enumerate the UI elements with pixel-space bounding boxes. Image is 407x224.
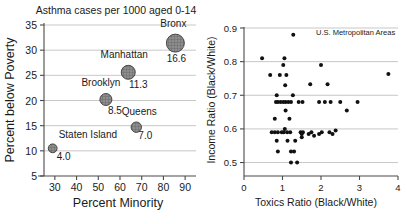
x-tick-label: 0 xyxy=(241,182,246,193)
bubble-group: Queens7.0 xyxy=(122,106,157,141)
scatter-point xyxy=(356,100,360,104)
scatter-point xyxy=(282,56,286,60)
scatter-point xyxy=(308,82,312,86)
scatter-point xyxy=(281,63,285,67)
y-tick-label: 0.9 xyxy=(224,23,237,34)
y-tick-label: 0.6 xyxy=(224,123,237,134)
scatter-point xyxy=(289,100,293,104)
bubble-value-queens: 7.0 xyxy=(138,130,152,141)
scatter-point xyxy=(273,117,277,121)
bubble-label-brooklyn: Brooklyn xyxy=(81,77,120,88)
scatter-point xyxy=(320,130,324,134)
scatter-point xyxy=(319,63,323,67)
y-axis-title-asthma: Percent below Poverty xyxy=(3,37,17,163)
bubble-marker xyxy=(100,93,112,105)
x-axis-title-toxics: Toxics Ratio (Black/White) xyxy=(255,196,377,208)
scatter-point xyxy=(338,100,342,104)
scatter-point xyxy=(345,108,349,112)
y-tick-label: 5 xyxy=(31,170,37,182)
scatter-point xyxy=(293,139,297,143)
toxics-income-scatter-svg: 0.50.60.70.80.901234 U.S. Metropolitan A… xyxy=(204,0,407,224)
scatter-point xyxy=(276,149,280,153)
bubble-marker xyxy=(121,65,135,79)
y-tick-label: 0.7 xyxy=(224,90,237,101)
scatter-point xyxy=(291,33,295,37)
y-tick-label: 35 xyxy=(25,19,37,31)
scatter-point xyxy=(268,73,272,77)
scatter-point xyxy=(317,100,321,104)
bubble-value-bronx: 16.6 xyxy=(167,53,187,64)
y-tick-label: 0.8 xyxy=(224,56,237,67)
x-tick-label: 2 xyxy=(318,182,323,193)
bubble-value-manhattan: 11.3 xyxy=(129,79,148,90)
bubble-label-manhattan: Manhattan xyxy=(101,49,148,60)
scatter-point xyxy=(309,130,313,134)
scatter-point xyxy=(278,73,282,77)
bubble-marker xyxy=(166,34,184,52)
x-tick-label: 4 xyxy=(395,182,400,193)
scatter-point xyxy=(287,117,291,121)
scatter-point xyxy=(289,161,293,165)
y-tick-label: 30 xyxy=(25,44,37,56)
scatter-point xyxy=(283,83,287,87)
bubble-value-staten-island: 4.0 xyxy=(57,151,71,162)
bubble-group: Bronx16.6 xyxy=(160,18,186,64)
bubble-label-staten-island: Staten Island xyxy=(59,129,117,140)
annotation-us-metropolitan-areas: U.S. Metropolitan Areas xyxy=(316,28,395,37)
scatter-series-toxics xyxy=(260,33,390,165)
scatter-point xyxy=(276,130,280,134)
scatter-point xyxy=(284,73,288,77)
x-tick-label: 40 xyxy=(71,181,83,193)
scatter-point xyxy=(260,56,264,60)
x-tick-label: 80 xyxy=(158,181,170,193)
scatter-point xyxy=(292,149,296,153)
x-tick-label: 1 xyxy=(280,182,285,193)
x-tick-label: 70 xyxy=(136,181,148,193)
toxics-income-scatter-panel: 0.50.60.70.80.901234 U.S. Metropolitan A… xyxy=(204,0,407,224)
chart-title-asthma: Asthma cases per 1000 aged 0-14 xyxy=(36,4,197,16)
scatter-point xyxy=(323,100,327,104)
asthma-bubble-chart-panel: Asthma cases per 1000 aged 0-14 51015202… xyxy=(0,0,204,224)
scatter-point xyxy=(329,100,333,104)
x-tick-label: 3 xyxy=(357,182,362,193)
y-tick-label: 10 xyxy=(25,145,37,157)
scatter-point xyxy=(286,139,290,143)
bubble-group: Staten Island4.0 xyxy=(48,129,117,162)
scatter-point xyxy=(275,139,279,143)
x-tick-label: 60 xyxy=(114,181,126,193)
gridlines-toxics xyxy=(244,28,398,163)
y-tick-label: 0.5 xyxy=(224,157,237,168)
figure-root: Asthma cases per 1000 aged 0-14 51015202… xyxy=(0,0,407,224)
scatter-point xyxy=(300,135,304,139)
x-axis-title-asthma: Percent Minority xyxy=(73,196,164,210)
scatter-point xyxy=(334,129,338,133)
scatter-point xyxy=(312,134,316,138)
tick-labels-toxics: 0.50.60.70.80.901234 xyxy=(224,23,401,194)
bubble-value-brooklyn: 8.5 xyxy=(108,105,122,116)
scatter-point xyxy=(301,100,305,104)
scatter-point xyxy=(283,127,287,131)
bubble-label-bronx: Bronx xyxy=(160,18,186,29)
scatter-point xyxy=(275,93,279,97)
bubble-series-asthma: Bronx16.6Manhattan11.3Brooklyn8.5Queens7… xyxy=(48,18,186,162)
scatter-point xyxy=(288,130,292,134)
y-axis-title-toxics: Income Ratio (Black/White) xyxy=(205,36,217,163)
bubble-label-queens: Queens xyxy=(122,106,157,117)
scatter-point xyxy=(301,130,305,134)
scatter-point xyxy=(295,161,299,165)
x-tick-label: 90 xyxy=(179,181,191,193)
y-tick-label: 25 xyxy=(25,69,37,81)
x-tick-label: 50 xyxy=(92,181,104,193)
scatter-point xyxy=(291,93,295,97)
scatter-point xyxy=(331,132,335,136)
scatter-point xyxy=(386,72,390,76)
bubble-group: Brooklyn8.5 xyxy=(81,77,122,116)
x-tick-label: 30 xyxy=(49,181,61,193)
scatter-point xyxy=(326,82,330,86)
y-tick-label: 15 xyxy=(25,120,37,132)
y-tick-label: 20 xyxy=(25,95,37,107)
scatter-point xyxy=(297,100,301,104)
asthma-bubble-chart-svg: Asthma cases per 1000 aged 0-14 51015202… xyxy=(0,0,204,224)
scatter-point xyxy=(284,108,288,112)
